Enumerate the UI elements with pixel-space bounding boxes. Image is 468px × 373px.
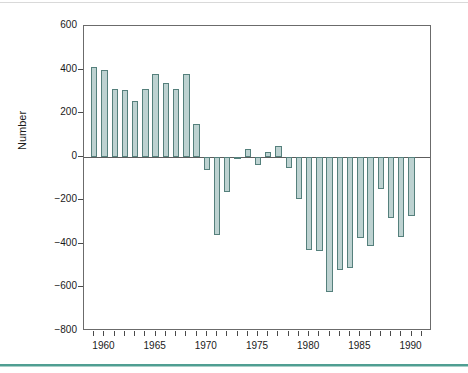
bar [224,157,230,192]
x-axis-tick [185,331,186,336]
bar [275,146,281,156]
bar [214,157,220,235]
bar [112,89,118,157]
bar [122,90,128,156]
x-axis-tick [257,331,258,336]
bar [286,157,292,168]
x-axis-tick [380,331,381,336]
y-axis-tick-label: −200 [33,193,77,204]
bar [132,101,138,157]
x-axis-tick-label: 1975 [237,340,277,351]
x-axis-tick [175,331,176,336]
bar [326,157,332,292]
x-axis-tick [329,331,330,336]
bar [265,152,271,156]
x-axis-tick [349,331,350,336]
bar [173,89,179,157]
bar [152,74,158,157]
x-axis-tick-label: 1980 [288,340,328,351]
bar [388,157,394,218]
bar [296,157,302,199]
x-axis-tick-label: 1960 [83,340,123,351]
x-axis-tick [298,331,299,336]
x-axis-tick [339,331,340,336]
x-axis-tick [318,331,319,336]
y-axis-title: Number [16,111,28,150]
bar [367,157,373,246]
bar [347,157,353,269]
x-axis-tick [226,331,227,336]
x-axis-tick [277,331,278,336]
bar [306,157,312,251]
x-axis-tick [308,331,309,336]
bar [378,157,384,190]
x-axis-tick [155,331,156,336]
x-axis-tick [390,331,391,336]
x-axis-tick [359,331,360,336]
y-axis-tick-label: −400 [33,237,77,248]
bar [316,157,322,252]
x-axis-tick [267,331,268,336]
x-axis-tick [247,331,248,336]
bar [398,157,404,238]
x-axis-tick [165,331,166,336]
x-axis-tick [144,331,145,336]
x-axis-tick [134,331,135,336]
x-axis-tick [216,331,217,336]
x-axis-tick [400,331,401,336]
y-axis-tick-label: 200 [33,106,77,117]
bottom-accent-rule-light [0,366,468,367]
bar [337,157,343,270]
x-axis-tick [206,331,207,336]
plot-area [83,25,431,330]
x-axis-tick [114,331,115,336]
x-axis-tick [288,331,289,336]
bar [408,157,414,216]
x-axis-tick [421,331,422,336]
y-axis-tick-label: −600 [33,280,77,291]
bar [163,83,169,157]
y-axis-tick-label: 600 [33,19,77,30]
x-axis-tick-label: 1985 [339,340,379,351]
x-axis-tick [411,331,412,336]
x-axis-tick [196,331,197,336]
y-axis-tick-label: 400 [33,63,77,74]
bar [357,157,363,239]
y-axis-tick-label: −800 [33,324,77,335]
x-axis-tick-label: 1970 [186,340,226,351]
x-axis-tick [93,331,94,336]
bar [142,89,148,157]
x-axis-tick [370,331,371,336]
bar-chart-figure: Number 6004002000−200−400−600−800 196019… [0,0,468,355]
x-axis-tick [237,331,238,336]
screenshot-root: Number 6004002000−200−400−600−800 196019… [0,0,468,373]
bar [204,157,210,170]
x-axis-tick-label: 1965 [135,340,175,351]
bar [91,67,97,156]
bar [193,124,199,157]
bar [255,157,261,166]
bar [245,149,251,157]
bar [101,70,107,157]
y-axis-tick-label: 0 [33,150,77,161]
bar [234,157,240,159]
bar [183,74,189,156]
x-axis-tick [124,331,125,336]
x-axis-tick [103,331,104,336]
x-axis-tick-label: 1990 [391,340,431,351]
